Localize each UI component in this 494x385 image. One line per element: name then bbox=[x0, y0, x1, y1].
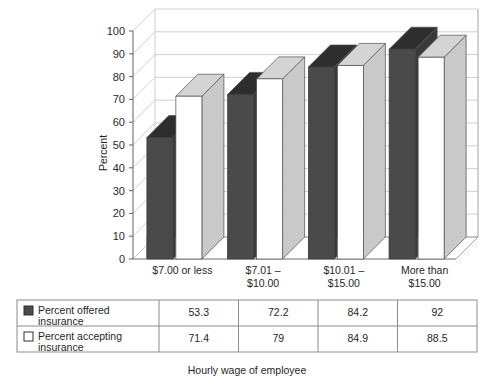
category-label: $15.00 bbox=[409, 277, 441, 289]
y-tick-label: 80 bbox=[113, 71, 125, 83]
plot-area bbox=[129, 9, 478, 259]
x-axis-title: Hourly wage of employee bbox=[188, 364, 307, 376]
category-label: $15.00 bbox=[328, 277, 360, 289]
bar-accepting-1 bbox=[257, 57, 305, 259]
bar-front-face bbox=[418, 57, 444, 259]
bar-side-face bbox=[283, 57, 305, 259]
table-cell-value: 84.2 bbox=[348, 306, 369, 318]
y-axis-title: Percent bbox=[97, 135, 109, 171]
bar-accepting-2 bbox=[337, 43, 385, 259]
bar-front-face bbox=[308, 67, 334, 259]
chart-figure: 0102030405060708090100 Percent $7.00 or … bbox=[0, 0, 494, 385]
y-tick-label: 40 bbox=[113, 162, 125, 174]
bar-front-face bbox=[257, 79, 283, 259]
legend-swatch-offered bbox=[24, 306, 33, 315]
table-cell-value: 53.3 bbox=[189, 306, 210, 318]
category-label: $10.00 bbox=[247, 277, 279, 289]
bar-side-face bbox=[202, 74, 224, 259]
category-label: $7.01 – bbox=[246, 264, 281, 276]
y-tick-label: 20 bbox=[113, 207, 125, 219]
y-tick-label: 50 bbox=[113, 139, 125, 151]
legend-swatch-accepting bbox=[24, 332, 33, 341]
bar-front-face bbox=[176, 96, 202, 259]
bar-front-face bbox=[147, 137, 173, 259]
category-label: More than bbox=[401, 264, 448, 276]
table-cell-value: 71.4 bbox=[189, 332, 210, 344]
category-label: $10.01 – bbox=[323, 264, 364, 276]
y-tick-label: 100 bbox=[107, 25, 125, 37]
bar-accepting-0 bbox=[176, 74, 224, 259]
y-tick-label: 60 bbox=[113, 116, 125, 128]
table-cell-value: 88.5 bbox=[427, 332, 448, 344]
bar-side-face bbox=[363, 43, 385, 259]
y-tick-label: 30 bbox=[113, 185, 125, 197]
table-row-label-line2: insurance bbox=[38, 315, 84, 327]
table-cell-value: 92 bbox=[431, 306, 443, 318]
bar-side-face bbox=[444, 35, 466, 259]
table-cell-value: 84.9 bbox=[348, 332, 369, 344]
table-row-label-line2: insurance bbox=[38, 341, 84, 353]
y-tick-label: 0 bbox=[119, 253, 125, 265]
bar-chart-3d: 0102030405060708090100 Percent $7.00 or … bbox=[0, 0, 494, 385]
y-tick-label: 90 bbox=[113, 48, 125, 60]
table-cell-value: 72.2 bbox=[268, 306, 289, 318]
bar-accepting-3 bbox=[418, 35, 466, 259]
data-table: Percent offeredinsurance53.372.284.292Pe… bbox=[17, 300, 477, 353]
bar-front-face bbox=[337, 65, 363, 259]
bar-front-face bbox=[389, 49, 415, 259]
y-tick-label: 10 bbox=[113, 230, 125, 242]
table-cell-value: 79 bbox=[272, 332, 284, 344]
category-label: $7.00 or less bbox=[152, 264, 212, 276]
bar-front-face bbox=[228, 94, 254, 259]
y-tick-label: 70 bbox=[113, 93, 125, 105]
